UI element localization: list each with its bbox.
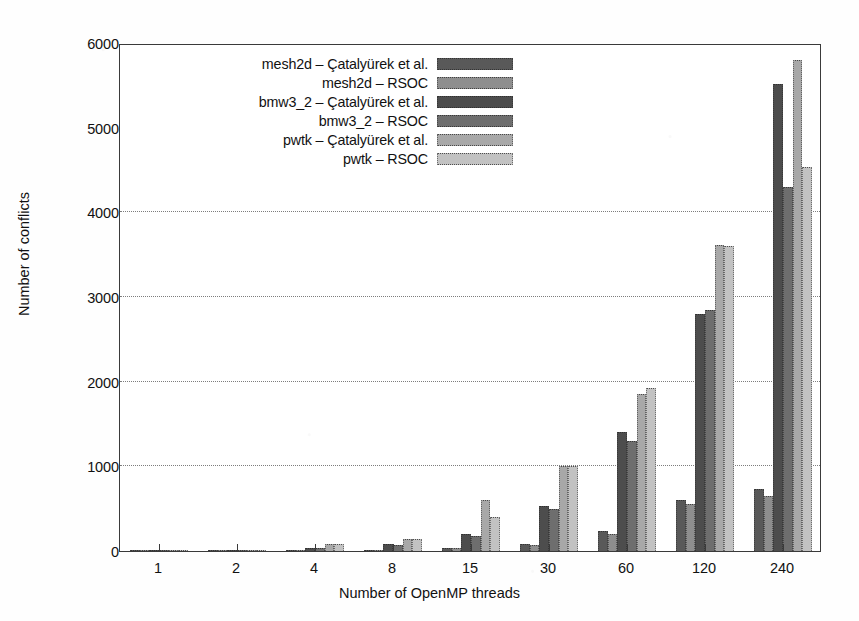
bar (724, 246, 734, 551)
x-axis-title: Number of OpenMP threads (0, 585, 859, 601)
bar (764, 496, 774, 551)
x-tick-mark-60 (627, 544, 628, 551)
bar (169, 550, 179, 551)
bar (296, 550, 306, 551)
bar (452, 548, 462, 551)
y-axis-title: Number of conflicts (16, 144, 32, 364)
y-tick-label-2000: 2000 (23, 376, 119, 391)
bar (695, 314, 705, 551)
bar (637, 394, 647, 551)
legend-swatch (437, 115, 513, 127)
legend-label: bmw3_2 – RSOC (319, 113, 428, 129)
bar (383, 544, 393, 551)
bar (159, 550, 169, 551)
legend-label: pwtk – Çatalyürek et al. (283, 132, 428, 148)
y-tick-label-6000: 6000 (23, 37, 119, 52)
x-tick-mark-4 (315, 544, 316, 551)
bar (646, 388, 656, 551)
chart-figure: Number of conflicts 01000200030004000500… (0, 0, 859, 621)
y-axis: Number of conflicts 01000200030004000500… (0, 0, 119, 621)
bar (237, 550, 247, 551)
bar (412, 539, 422, 551)
legend-label: bmw3_2 – Çatalyürek et al. (259, 94, 428, 110)
y-tick-label-1000: 1000 (23, 460, 119, 475)
bar (471, 536, 481, 551)
x-tick-label-4: 4 (284, 560, 344, 576)
legend-swatch (437, 58, 513, 70)
x-tick-mark-240 (783, 544, 784, 551)
legend-item: mesh2d – RSOC (183, 75, 513, 92)
bar (325, 544, 335, 551)
bar (130, 550, 140, 551)
bar (793, 60, 803, 551)
bar (802, 167, 812, 551)
bar (140, 550, 150, 551)
x-tick-label-120: 120 (674, 560, 734, 576)
bar (559, 466, 569, 551)
legend-swatch (437, 96, 513, 108)
x-tick-mark-30 (549, 544, 550, 551)
legend-item: pwtk – RSOC (183, 151, 513, 168)
bar (374, 550, 384, 551)
legend-label: pwtk – RSOC (343, 151, 428, 167)
bar (247, 550, 257, 551)
x-tick-label-240: 240 (752, 560, 812, 576)
x-tick-mark-15 (471, 544, 472, 551)
x-tick-label-2: 2 (206, 560, 266, 576)
bar (783, 187, 793, 551)
bar (490, 517, 500, 551)
bar (208, 550, 218, 551)
bar (178, 550, 188, 551)
bar (286, 550, 296, 551)
legend-item: bmw3_2 – RSOC (183, 113, 513, 130)
bar (218, 550, 228, 551)
bar (481, 500, 491, 551)
bar (598, 531, 608, 551)
y-tick-label-4000: 4000 (23, 206, 119, 221)
bar (539, 506, 549, 551)
bar (256, 550, 266, 551)
bar (608, 534, 618, 551)
bar (403, 539, 413, 551)
bar (549, 509, 559, 551)
bar (715, 245, 725, 551)
x-tick-mark-8 (393, 544, 394, 551)
bar (627, 441, 637, 551)
bar (676, 500, 686, 551)
y-tick-label-3000: 3000 (23, 291, 119, 306)
bar (393, 545, 403, 551)
chart-legend: mesh2d – Çatalyürek et al.mesh2d – RSOCb… (183, 56, 513, 170)
legend-label: mesh2d – RSOC (322, 75, 428, 91)
x-tick-label-30: 30 (518, 560, 578, 576)
bar (442, 548, 452, 551)
legend-swatch (437, 153, 513, 165)
x-tick-label-15: 15 (440, 560, 500, 576)
y-tick-label-5000: 5000 (23, 122, 119, 137)
bar (364, 550, 374, 551)
legend-label: mesh2d – Çatalyürek et al. (262, 56, 428, 72)
bar (334, 544, 344, 551)
bar (461, 534, 471, 551)
legend-item: mesh2d – Çatalyürek et al. (183, 56, 513, 73)
bar (568, 466, 578, 551)
legend-swatch (437, 77, 513, 89)
legend-item: bmw3_2 – Çatalyürek et al. (183, 94, 513, 111)
x-tick-mark-2 (237, 544, 238, 551)
x-tick-label-1: 1 (128, 560, 188, 576)
bar (705, 310, 715, 551)
bar (305, 548, 315, 551)
bar (149, 550, 159, 551)
bar (754, 489, 764, 551)
bar (617, 432, 627, 551)
bar (686, 504, 696, 551)
bar (315, 548, 325, 551)
y-tick-label-0: 0 (23, 545, 119, 560)
bar (227, 550, 237, 551)
bar (773, 84, 783, 551)
legend-item: pwtk – Çatalyürek et al. (183, 132, 513, 149)
bar (520, 544, 530, 551)
x-tick-label-8: 8 (362, 560, 422, 576)
bar (530, 545, 540, 551)
x-tick-mark-120 (705, 544, 706, 551)
x-tick-mark-1 (159, 544, 160, 551)
